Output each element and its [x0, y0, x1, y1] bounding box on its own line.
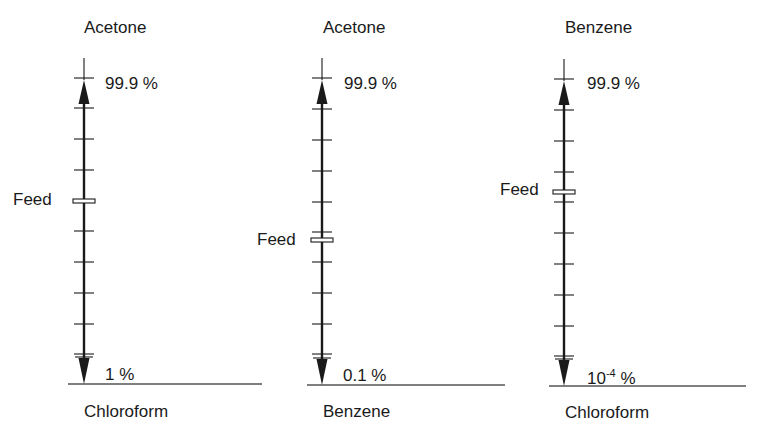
column-1-bottom-component: Chloroform	[84, 403, 168, 420]
column-1-down-arrow-icon	[79, 358, 90, 384]
column-3-down-arrow-icon	[559, 360, 570, 386]
column-3-top-purity: 99.9 %	[587, 75, 640, 92]
column-2-bottom-component: Benzene	[323, 403, 390, 420]
column-2-bottom-purity-value: 0.1 %	[343, 366, 386, 385]
column-3-feed-marker	[553, 190, 575, 194]
column-3-top-component: Benzene	[565, 19, 632, 36]
column-3-bottom-purity: 10-4 %	[587, 368, 636, 387]
column-1-top-purity: 99.9 %	[105, 75, 158, 92]
column-3-bottom-purity-exponent: -4	[606, 367, 616, 379]
column-1-up-arrow-icon	[79, 80, 90, 104]
column-2-bottom-purity: 0.1 %	[343, 367, 386, 384]
column-2-feed-marker	[311, 238, 333, 242]
column-2-down-arrow-icon	[317, 359, 328, 385]
column-1-feed-label: Feed	[13, 191, 52, 208]
column-2-feed-label: Feed	[257, 231, 296, 248]
column-1-bottom-purity: 1 %	[105, 366, 134, 383]
column-2-top-component: Acetone	[323, 19, 385, 36]
column-3-bottom-purity-base: 10	[587, 369, 606, 388]
column-1-feed-marker	[73, 199, 95, 203]
column-1-bottom-purity-value: 1 %	[105, 365, 134, 384]
column-3-bottom-component: Chloroform	[565, 404, 649, 421]
column-3-feed-label: Feed	[500, 181, 539, 198]
column-3-up-arrow-icon	[559, 81, 570, 105]
column-3-bottom-purity-suffix: %	[616, 369, 636, 388]
column-1-top-component: Acetone	[84, 19, 146, 36]
column-2-top-purity: 99.9 %	[344, 75, 397, 92]
column-2-up-arrow-icon	[317, 80, 328, 104]
